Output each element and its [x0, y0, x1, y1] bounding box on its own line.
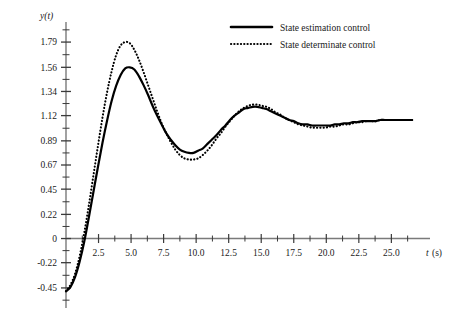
y-tick-label: 1.79: [40, 37, 57, 47]
y-tick-label: 0.89: [40, 136, 57, 146]
y-axis-title: y(t): [39, 11, 53, 22]
x-axis-title: t: [426, 248, 429, 258]
y-tick-label: 0.45: [40, 185, 57, 195]
y-tick-label: 0: [52, 234, 57, 244]
x-tick-label: 25.0: [383, 248, 400, 258]
x-tick-label: 20.0: [318, 248, 335, 258]
x-tick-label: 22.5: [351, 248, 368, 258]
chart-background: [0, 0, 457, 317]
legend-label-1: State estimation control: [280, 23, 371, 33]
y-tick-label: -0.45: [37, 283, 57, 293]
x-tick-label: 10.0: [188, 248, 205, 258]
x-tick-label: 5.0: [125, 248, 137, 258]
x-axis-unit: (s): [432, 248, 442, 259]
x-tick-label: 12.5: [220, 248, 237, 258]
x-tick-label: 17.5: [285, 248, 302, 258]
y-tick-label: 1.56: [40, 63, 57, 73]
chart-figure: 2.55.07.510.012.515.017.520.022.525.01.7…: [0, 0, 457, 317]
legend-label-2: State determinate control: [280, 40, 376, 50]
x-tick-label: 15.0: [253, 248, 270, 258]
y-tick-label: 0.22: [40, 210, 57, 220]
line-chart: 2.55.07.510.012.515.017.520.022.525.01.7…: [0, 0, 457, 317]
y-tick-label: 0.67: [40, 160, 57, 170]
y-tick-label: -0.22: [37, 258, 57, 268]
y-tick-label: 1.34: [40, 87, 57, 97]
x-tick-label: 7.5: [158, 248, 170, 258]
y-tick-label: 1.12: [40, 111, 57, 121]
x-tick-label: 2.5: [93, 248, 105, 258]
